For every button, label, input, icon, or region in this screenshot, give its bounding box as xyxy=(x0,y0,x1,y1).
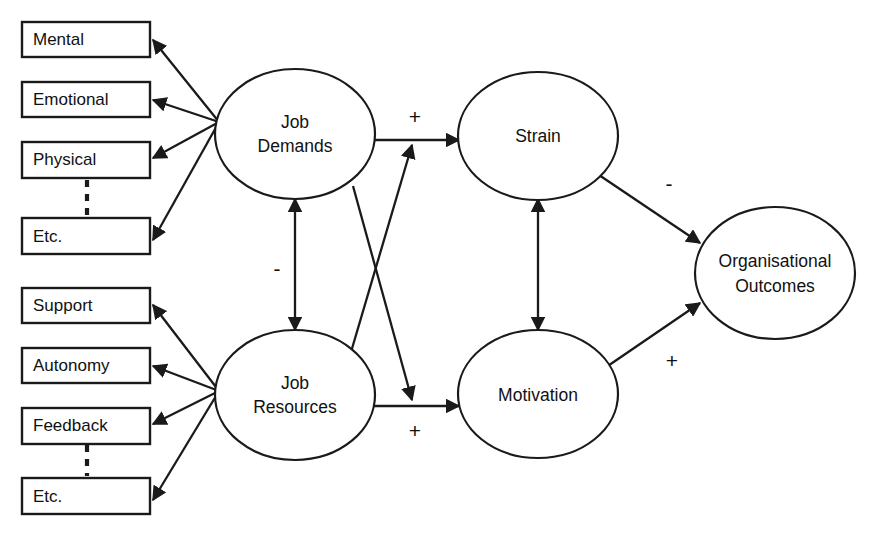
node-autonomy-label: Autonomy xyxy=(33,356,110,375)
node-organisational-outcomes-label-line2: Outcomes xyxy=(735,276,815,296)
edge-strain-to-outcomes xyxy=(599,175,700,243)
node-job-demands-label-line1: Job xyxy=(281,112,309,132)
node-organisational-outcomes[interactable]: Organisational Outcomes xyxy=(695,207,855,339)
node-organisational-outcomes-label-line1: Organisational xyxy=(719,251,832,271)
edge-group-demand-indicators xyxy=(153,40,219,240)
sign-motivation-outcomes: + xyxy=(666,349,678,372)
node-mental[interactable]: Mental xyxy=(22,22,150,57)
edge-group-resource-indicators xyxy=(153,305,219,500)
node-etc-demands-label: Etc. xyxy=(33,227,62,246)
edge-motivation-to-outcomes xyxy=(599,303,700,372)
node-feedback-label: Feedback xyxy=(33,416,108,435)
node-job-resources[interactable]: Job Resources xyxy=(215,330,375,460)
node-job-demands-label-line2: Demands xyxy=(258,136,333,156)
node-etc-resources[interactable]: Etc. xyxy=(22,478,150,514)
node-support-label: Support xyxy=(33,296,93,315)
diagram-canvas: Mental Emotional Physical Etc. Support A… xyxy=(0,0,880,546)
node-motivation-label: Motivation xyxy=(498,385,578,405)
node-feedback[interactable]: Feedback xyxy=(22,408,150,444)
edge-resources-buffers-strain xyxy=(351,145,412,352)
sign-demands-resources: - xyxy=(274,257,281,280)
node-job-resources-label-line2: Resources xyxy=(253,397,337,417)
sign-strain-outcomes: - xyxy=(666,172,673,195)
node-autonomy[interactable]: Autonomy xyxy=(22,348,150,383)
node-emotional[interactable]: Emotional xyxy=(22,82,150,117)
node-job-demands-ellipse[interactable] xyxy=(215,69,375,199)
edge-demands-to-mental xyxy=(153,40,219,122)
node-support[interactable]: Support xyxy=(22,288,150,323)
node-job-demands[interactable]: Job Demands xyxy=(215,69,375,199)
node-mental-label: Mental xyxy=(33,30,84,49)
node-emotional-label: Emotional xyxy=(33,90,109,109)
node-strain-label: Strain xyxy=(515,126,561,146)
sign-resources-motivation: + xyxy=(409,419,421,442)
node-strain[interactable]: Strain xyxy=(458,72,618,200)
jdr-model-diagram: Mental Emotional Physical Etc. Support A… xyxy=(0,0,880,546)
node-job-resources-ellipse[interactable] xyxy=(215,330,375,460)
node-etc-demands[interactable]: Etc. xyxy=(22,218,150,254)
node-etc-resources-label: Etc. xyxy=(33,487,62,506)
node-job-resources-label-line1: Job xyxy=(281,373,309,393)
node-physical-label: Physical xyxy=(33,150,96,169)
node-organisational-outcomes-ellipse[interactable] xyxy=(695,207,855,339)
node-physical[interactable]: Physical xyxy=(22,142,150,178)
node-motivation[interactable]: Motivation xyxy=(458,330,618,458)
sign-demands-strain: + xyxy=(409,105,421,128)
